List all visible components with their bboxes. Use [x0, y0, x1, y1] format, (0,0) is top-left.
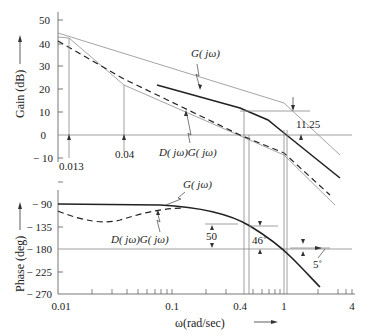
gain-tick-40: 40	[39, 38, 51, 50]
gain-tick-30: 30	[39, 60, 51, 72]
dg-gain-line	[58, 41, 330, 195]
x-axis-title: ω(rad/sec)	[175, 316, 225, 330]
arrow-down-icon	[258, 221, 262, 226]
arrow-down-icon	[210, 243, 214, 248]
g-gain-line	[157, 85, 340, 178]
leader-line	[166, 192, 185, 205]
dg-label-bottom: D( jω)G( jω)	[110, 233, 169, 246]
phase-axis-arrow-icon	[18, 202, 22, 209]
x-axis-arrow-icon	[271, 320, 278, 324]
gain-axis-arrow-icon	[18, 35, 22, 42]
label-50: 50	[206, 230, 218, 242]
x-tick-0-01: 0.01	[51, 300, 70, 312]
label-46: 46˚	[252, 234, 267, 246]
x-tick-0-1: 0.1	[165, 300, 179, 312]
phase-tick-135: − 135	[27, 221, 53, 233]
g-label-bottom: G( jω)	[183, 178, 212, 191]
gain-tick-50: 50	[39, 14, 51, 26]
gain-tick-minus10: − 10	[33, 152, 53, 164]
arrow-down-icon	[198, 84, 202, 90]
x-tick-1: 1	[281, 300, 287, 312]
leader-line	[318, 249, 325, 258]
gain-tick-20: 20	[39, 83, 51, 95]
arrow-up-icon	[258, 249, 262, 254]
crossover-lines	[244, 110, 287, 294]
phase-tick-180: − 180	[27, 243, 53, 255]
x-tick-4: 4	[349, 300, 355, 312]
label-0-04: 0.04	[115, 148, 135, 160]
phase-tick-225: − 225	[27, 266, 53, 278]
phase-axis-title: Phase (deg)	[13, 236, 27, 292]
x-ticks	[92, 289, 352, 294]
arrow-down-icon	[301, 239, 305, 244]
gain-y-ticks	[58, 20, 63, 158]
label-5: 5˚	[313, 258, 322, 270]
x-tick-0-4: 0.4	[233, 300, 247, 312]
label-0-013: 0.013	[59, 160, 84, 172]
gain-tick-10: 10	[39, 106, 51, 118]
label-11-25: 11.25	[296, 118, 321, 130]
dg-label-top: D( jω)G( jω)	[158, 146, 217, 159]
phase-plot: − 90 − 135 − 180 − 225 − 270 0.01 0.1 0.…	[13, 178, 355, 330]
gain-plot: 50 40 30 20 10 0 − 10 Gain (dB) 0.013 0.…	[13, 12, 352, 205]
phase-tick-270: − 270	[27, 288, 53, 300]
leader-line	[187, 115, 191, 143]
bode-plot: 50 40 30 20 10 0 − 10 Gain (dB) 0.013 0.…	[0, 0, 370, 336]
g-label-top: G( jω)	[191, 47, 220, 60]
gain-tick-0: 0	[41, 129, 47, 141]
gain-axis-title: Gain (dB)	[13, 70, 27, 118]
g-phase-line	[58, 204, 320, 287]
dg-phase-line	[58, 208, 185, 222]
phase-y-ticks	[58, 182, 63, 272]
phase-tick-90: − 90	[32, 198, 52, 210]
arrow-up-icon	[301, 251, 305, 256]
